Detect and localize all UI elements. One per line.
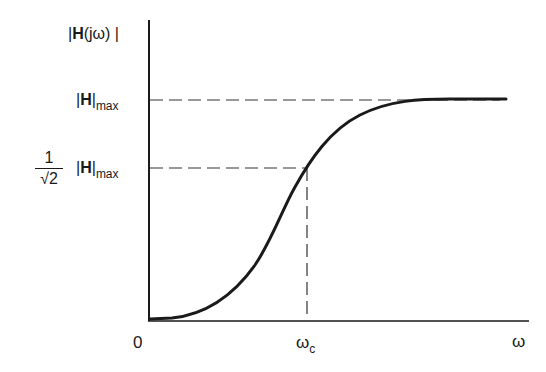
one-over-root2-fraction: 1 √2 <box>34 150 64 187</box>
cutoff-subscript: max <box>96 167 119 181</box>
y-axis-title: |H(jω) | <box>68 26 119 42</box>
hmax-label: |H|max <box>76 92 119 108</box>
omega-c-subscript: c <box>309 342 315 356</box>
cutoff-level-label: |H|max <box>76 160 119 176</box>
cutoff-h: H <box>80 159 92 176</box>
origin-label: 0 <box>133 334 142 351</box>
omega-c-symbol: ω <box>296 333 309 352</box>
plot-area <box>0 0 546 372</box>
omega-axis-label: ω <box>512 333 525 350</box>
y-axis-title-arg: (jω) | <box>84 25 119 42</box>
hmax-subscript: max <box>96 99 119 113</box>
fraction-numerator: 1 <box>34 150 64 166</box>
fraction-denominator: √2 <box>34 171 64 187</box>
hmax-h: H <box>80 91 92 108</box>
omega-c-label: ωc <box>296 334 315 351</box>
fraction-bar <box>35 168 63 169</box>
magnitude-response-curve <box>150 99 506 319</box>
y-axis-title-h: H <box>72 25 84 42</box>
